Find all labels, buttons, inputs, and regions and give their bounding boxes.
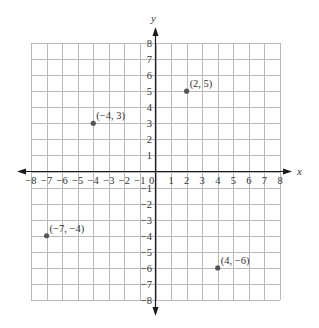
x-tick-label: −6	[57, 175, 68, 186]
y-tick-label: 2	[147, 134, 152, 145]
x-tick-label: 1	[168, 175, 173, 186]
y-tick-label: 8	[147, 38, 152, 49]
y-tick-label: −2	[141, 199, 152, 210]
x-tick-label: 4	[215, 175, 221, 186]
x-tick-labels: −8−7−6−5−4−3−2−1012345678	[25, 175, 282, 186]
y-tick-label: −7	[141, 279, 152, 290]
x-tick-label: 2	[184, 175, 189, 186]
y-tick-label: 6	[147, 70, 152, 81]
data-point	[215, 265, 220, 270]
y-tick-label: 5	[147, 86, 152, 97]
x-tick-label: −5	[72, 175, 83, 186]
y-axis-label: y	[150, 12, 156, 24]
y-tick-label: −6	[141, 263, 152, 274]
x-tick-label: −2	[119, 175, 130, 186]
coordinate-plane: x y −8−7−6−5−4−3−2−1012345678 −8−7−6−5−4…	[0, 0, 319, 328]
y-tick-label: 1	[147, 150, 152, 161]
axes: x y	[17, 12, 302, 316]
x-tick-label: 8	[277, 175, 282, 186]
x-tick-label: 6	[246, 175, 251, 186]
x-tick-label: −8	[25, 175, 36, 186]
x-axis-right-arrow-icon	[283, 169, 292, 175]
data-point	[44, 233, 49, 238]
point-label: (2, 5)	[190, 78, 213, 90]
y-tick-label: 3	[147, 118, 152, 129]
y-tick-label: 7	[147, 54, 152, 65]
point-label: (−7, −4)	[50, 223, 85, 235]
x-tick-label: −7	[41, 175, 52, 186]
y-tick-label: 4	[147, 102, 153, 113]
y-tick-label: −1	[141, 183, 152, 194]
y-tick-label: −8	[141, 295, 152, 306]
y-axis-up-arrow-icon	[153, 27, 159, 36]
y-axis-down-arrow-icon	[153, 307, 159, 316]
x-axis-label: x	[296, 165, 302, 177]
x-tick-label: 7	[262, 175, 267, 186]
point-label: (4, −6)	[221, 255, 250, 267]
x-tick-label: −3	[103, 175, 114, 186]
data-point	[91, 121, 96, 126]
x-tick-label: 3	[200, 175, 205, 186]
y-tick-label: −5	[141, 247, 152, 258]
y-tick-label: −4	[141, 231, 153, 242]
x-tick-label: −4	[88, 175, 100, 186]
x-tick-label: 5	[231, 175, 236, 186]
x-axis-left-arrow-icon	[17, 169, 26, 175]
point-label: (−4, 3)	[96, 110, 125, 122]
data-point	[184, 89, 189, 94]
y-tick-label: −3	[141, 215, 152, 226]
